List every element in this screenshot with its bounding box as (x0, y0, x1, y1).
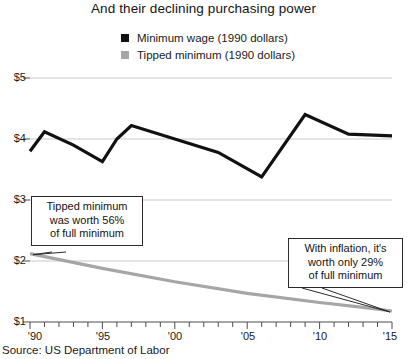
plot-area (0, 0, 407, 359)
x-tick-label-00: '00 (168, 330, 182, 342)
annotation-tipped-line-1: Tipped minimum (38, 200, 136, 214)
annotation-inflation: With inflation, it's worth only 29% of f… (288, 238, 403, 288)
annotation-tipped-line-3: of full minimum (38, 227, 136, 241)
annotation-inflation-line-1: With inflation, it's (295, 242, 396, 256)
y-tick-label-5: $5 (2, 71, 26, 83)
x-tick-label-90: '90 (28, 330, 42, 342)
y-tick-label-3: $3 (2, 193, 26, 205)
chart-container: And their declining purchasing power Min… (0, 0, 407, 359)
annotation-inflation-line-2: worth only 29% (295, 256, 396, 270)
series-line-minimum-wage (30, 115, 392, 177)
plot-svg (0, 0, 407, 359)
x-tick-label-95: '95 (96, 330, 110, 342)
annotation-leader-inflation-0 (302, 288, 390, 312)
x-tick-label-15: '15 (383, 330, 397, 342)
y-tick-label-2: $2 (2, 254, 26, 266)
source-caption: Source: US Department of Labor (2, 344, 169, 356)
annotation-inflation-line-3: of full minimum (295, 269, 396, 283)
annotation-tipped-line-2: was worth 56% (38, 214, 136, 228)
annotation-tipped-minimum: Tipped minimum was worth 56% of full min… (31, 196, 143, 246)
x-tick-label-10: '10 (313, 330, 327, 342)
annotation-leader-inflation-1 (322, 288, 390, 312)
y-tick-label-1: $1 (2, 315, 26, 327)
x-tick-label-05: '05 (241, 330, 255, 342)
y-tick-label-4: $4 (2, 132, 26, 144)
